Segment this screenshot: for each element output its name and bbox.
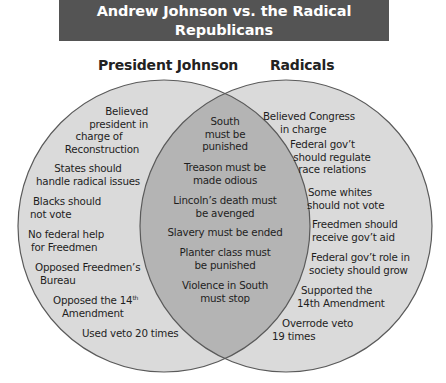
right-item-5: Federal gov’t role in society should gro… xyxy=(309,251,410,276)
left-item-2: States should handle radical issues xyxy=(36,162,140,187)
shared-item-3: Lincoln’s death must be avenged xyxy=(160,194,290,219)
right-item-6: Supported the 14th Amendment xyxy=(297,284,385,309)
left-item-6: Opposed the 14th Amendment xyxy=(53,294,138,319)
shared-item-4: Slavery must be ended xyxy=(160,226,290,239)
shared-item-6: Violence in South must stop xyxy=(160,279,290,304)
right-item-7: Overrode veto 19 times xyxy=(272,317,353,342)
right-item-4: Freedmen should receive gov’t aid xyxy=(312,218,398,243)
left-item-5: Opposed Freedmen’s Bureau xyxy=(35,261,140,286)
left-item-1: Believed president in charge of Reconstr… xyxy=(56,105,148,155)
right-item-2: Federal gov’t should regulate race relat… xyxy=(284,138,380,176)
right-item-3: Some whites should not vote xyxy=(307,186,384,211)
right-item-1: Believed Congress in charge xyxy=(263,110,355,135)
left-item-4: No federal help for Freedmen xyxy=(28,228,104,253)
shared-item-2: Treason must be made odious xyxy=(160,161,290,186)
shared-item-5: Planter class must be punished xyxy=(160,246,290,271)
left-item-7: Used veto 20 times xyxy=(82,327,179,340)
left-item-3: Blacks should not vote xyxy=(30,195,101,220)
